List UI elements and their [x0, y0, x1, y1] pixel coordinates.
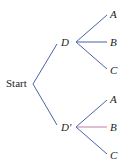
edge-d-a	[76, 15, 107, 42]
edge-d-c	[76, 42, 107, 69]
node-d-c: C	[110, 65, 117, 76]
node-dprime-b: B	[110, 122, 117, 133]
node-start: Start	[6, 78, 27, 89]
edge-dprime-a	[76, 100, 107, 127]
edge-dprime-c	[76, 127, 107, 154]
node-d: D	[61, 37, 69, 48]
edge-start-dprime	[33, 84, 57, 125]
node-d-b: B	[110, 37, 117, 48]
node-dprime: D'	[61, 122, 71, 133]
node-d-a: A	[110, 9, 117, 20]
node-dprime-c: C	[110, 150, 117, 161]
node-dprime-a: A	[110, 94, 117, 105]
edge-start-d	[33, 44, 57, 84]
tree-diagram: Start D D' A B C A B C	[0, 0, 132, 167]
